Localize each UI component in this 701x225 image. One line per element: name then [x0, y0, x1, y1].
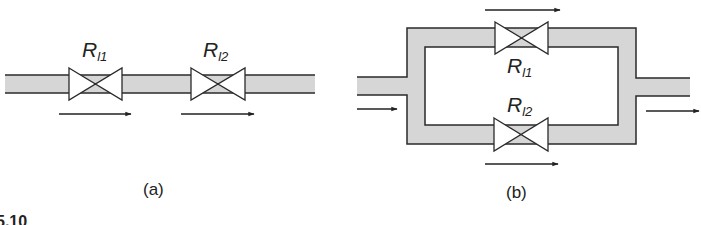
valve-icon — [191, 68, 245, 100]
figure-number: 5.10 — [0, 213, 27, 225]
caption-b: (b) — [506, 183, 527, 203]
valve-label-rl2-b: Rl2 — [507, 93, 532, 119]
panel-b-parallel — [357, 10, 699, 164]
pipe-a — [5, 75, 315, 93]
valve-label-rl1-a: Rl1 — [82, 38, 107, 64]
valve-icon — [69, 68, 122, 100]
caption-a: (a) — [143, 180, 164, 200]
valve-label-rl2-a: Rl2 — [203, 38, 228, 64]
diagram-canvas — [0, 0, 701, 225]
valve-label-rl1-b: Rl1 — [507, 54, 532, 80]
panel-a-series — [5, 68, 315, 114]
